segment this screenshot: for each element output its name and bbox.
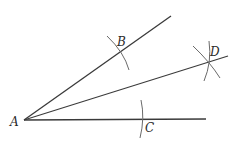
- diagram-canvas: A B C D: [0, 0, 239, 145]
- ray-ab: [24, 16, 171, 120]
- ray-ac: [24, 119, 206, 120]
- label-b: B: [116, 35, 126, 49]
- label-a: A: [9, 115, 19, 129]
- ray-ad: [24, 56, 228, 120]
- label-d: D: [209, 45, 220, 59]
- label-c: C: [145, 121, 154, 135]
- angle-bisector-diagram: A B C D: [0, 0, 239, 145]
